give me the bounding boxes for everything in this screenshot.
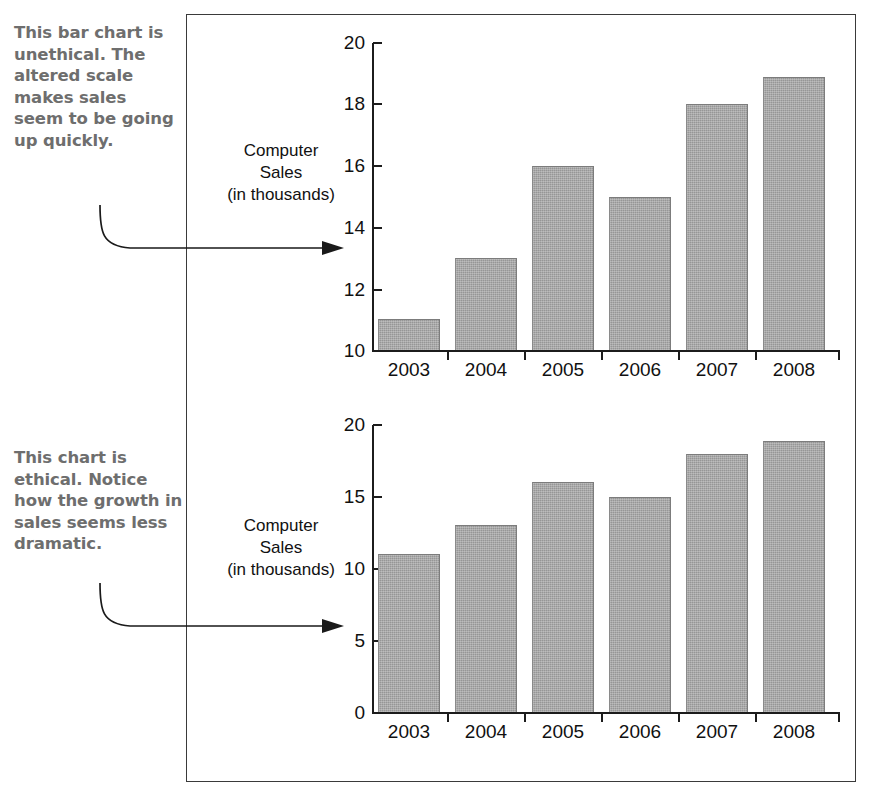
x-tick-label-top-2008: 2008 [756, 359, 832, 381]
annotation-unethical: This bar chart is unethical. The altered… [14, 22, 174, 151]
x-tick-label-top-2005: 2005 [525, 359, 601, 381]
y-axis-line-top [372, 43, 374, 352]
y-tick-label-top-14: 14 [327, 217, 365, 239]
bar-bottom-2004 [455, 525, 517, 712]
x-tick-label-bottom-2006: 2006 [602, 721, 678, 743]
bar-bottom-2003 [378, 554, 440, 712]
y-tick-top-14 [373, 227, 382, 229]
bar-bottom-2008 [763, 441, 825, 712]
bar-bottom-2007 [686, 454, 748, 712]
y-tick-label-bottom-15: 15 [327, 486, 365, 508]
bar-top-2006 [609, 197, 671, 350]
bar-bottom-2005 [532, 482, 594, 712]
x-tick-label-top-2006: 2006 [602, 359, 678, 381]
y-tick-label-top-18: 18 [327, 93, 365, 115]
y-tick-bottom-20 [373, 424, 382, 426]
bar-top-2005 [532, 166, 594, 350]
y-tick-top-20 [373, 42, 382, 44]
x-tick-label-bottom-2003: 2003 [371, 721, 447, 743]
bar-bottom-2006 [609, 497, 671, 712]
bar-top-2008 [763, 77, 825, 350]
x-tick-label-top-2004: 2004 [448, 359, 524, 381]
pointer-arrow-ethical [86, 578, 356, 648]
y-tick-label-top-10: 10 [327, 340, 365, 362]
y-tick-bottom-15 [373, 496, 382, 498]
y-tick-label-bottom-0: 0 [327, 702, 365, 724]
bar-top-2004 [455, 258, 517, 350]
x-tick-label-bottom-2008: 2008 [756, 721, 832, 743]
x-tick-label-bottom-2005: 2005 [525, 721, 601, 743]
y-tick-label-bottom-10: 10 [327, 558, 365, 580]
y-tick-top-18 [373, 103, 382, 105]
y-tick-label-top-12: 12 [327, 279, 365, 301]
x-tick-label-top-2007: 2007 [679, 359, 755, 381]
x-tick-label-bottom-2004: 2004 [448, 721, 524, 743]
figure-canvas: This bar chart is unethical. The altered… [0, 0, 874, 791]
y-tick-label-bottom-20: 20 [327, 414, 365, 436]
y-tick-top-12 [373, 289, 382, 291]
y-tick-label-top-16: 16 [327, 155, 365, 177]
x-axis-line-top [372, 350, 840, 352]
annotation-ethical: This chart is ethical. Notice how the gr… [14, 447, 186, 555]
y-tick-label-bottom-5: 5 [327, 630, 365, 652]
bar-top-2003 [378, 319, 440, 350]
x-tick-top-end [838, 351, 840, 360]
x-tick-bottom-end [838, 713, 840, 722]
figure-frame [186, 14, 856, 782]
y-tick-label-top-20: 20 [327, 32, 365, 54]
x-tick-label-bottom-2007: 2007 [679, 721, 755, 743]
bar-top-2007 [686, 104, 748, 350]
pointer-arrow-unethical [86, 200, 356, 270]
y-tick-top-16 [373, 165, 382, 167]
x-tick-label-top-2003: 2003 [371, 359, 447, 381]
x-axis-line-bottom [372, 712, 840, 714]
